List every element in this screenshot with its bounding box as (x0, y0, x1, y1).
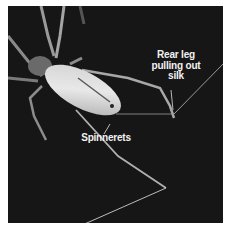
leg-faint (80, 6, 84, 24)
leg-lower (76, 110, 166, 188)
spinneret-dot (110, 104, 114, 108)
silk-line-bottom (80, 188, 166, 223)
leg-left-3 (30, 86, 46, 140)
leg-left-2 (8, 78, 38, 81)
spider-photo (8, 6, 223, 223)
label-spinnerets: Spinnerets (74, 133, 138, 144)
leg-front-1 (41, 6, 54, 56)
spider-illustration (8, 6, 223, 223)
label-rear-leg: Rear leg pulling out silk (144, 50, 208, 82)
leg-front-2 (56, 6, 64, 58)
leg-mid (70, 58, 82, 64)
